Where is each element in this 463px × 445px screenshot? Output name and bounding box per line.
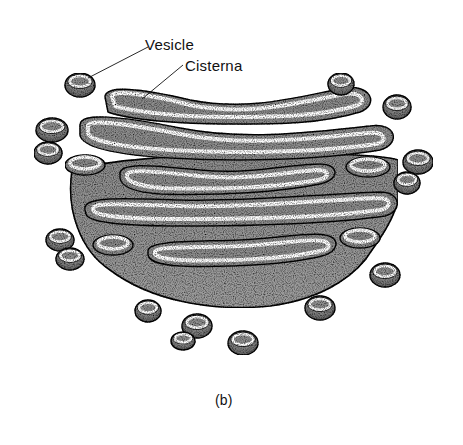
vesicle <box>56 248 84 270</box>
golgi-figure: Vesicle Cisterna (b) <box>0 0 463 445</box>
golgi-stack <box>65 87 398 307</box>
figure-caption: (b) <box>215 393 233 407</box>
vesicle <box>403 150 433 174</box>
vesicle <box>305 296 335 320</box>
vesicle-label: Vesicle <box>145 37 194 52</box>
vesicle <box>383 95 411 119</box>
vesicle <box>34 142 62 164</box>
vesicle <box>394 172 420 194</box>
vesicle <box>36 118 68 142</box>
vesicle <box>135 300 161 322</box>
vesicle <box>171 332 195 350</box>
vesicle <box>228 331 258 355</box>
cisterna-label: Cisterna <box>185 58 242 73</box>
vesicle-leader-line <box>88 47 148 78</box>
vesicle <box>328 73 354 95</box>
vesicle <box>370 263 400 287</box>
